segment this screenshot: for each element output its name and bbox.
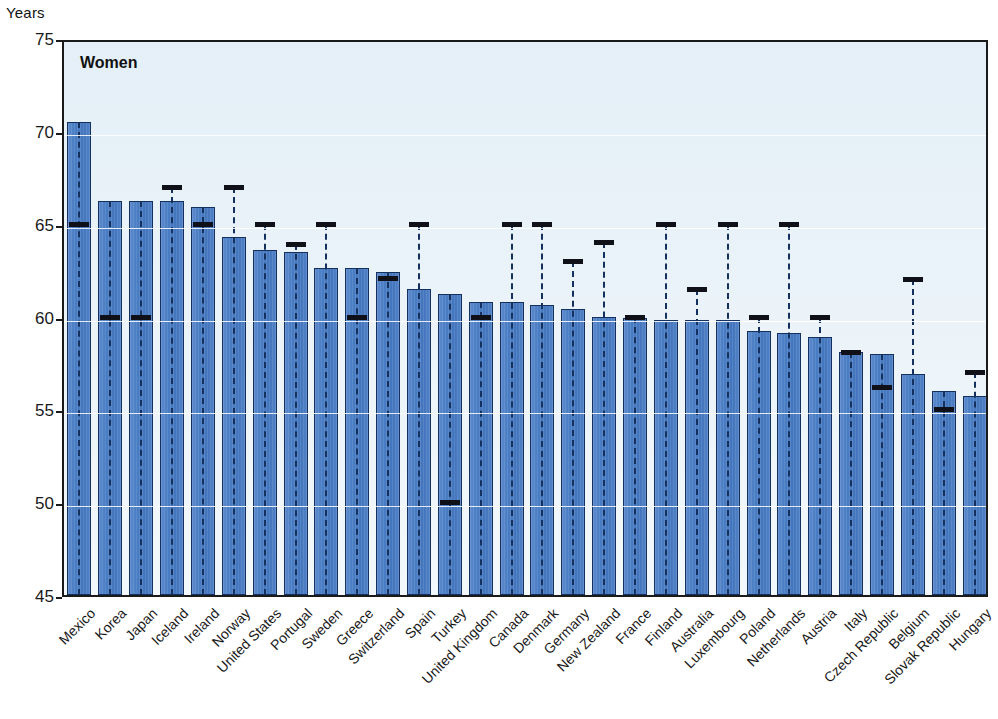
marker-official-retirement-age[interactable] bbox=[131, 315, 151, 320]
bar-group[interactable] bbox=[777, 40, 801, 595]
bar-group[interactable] bbox=[160, 40, 184, 595]
bar-group[interactable] bbox=[530, 40, 554, 595]
connector-dashed-line bbox=[912, 279, 914, 595]
bar-group[interactable] bbox=[284, 40, 308, 595]
marker-official-retirement-age[interactable] bbox=[162, 185, 182, 190]
marker-official-retirement-age[interactable] bbox=[255, 222, 275, 227]
marker-official-retirement-age[interactable] bbox=[903, 277, 923, 282]
connector-dashed-line bbox=[202, 207, 204, 595]
y-axis-tick-mark bbox=[56, 504, 62, 506]
connector-dashed-line bbox=[264, 224, 266, 595]
marker-official-retirement-age[interactable] bbox=[810, 315, 830, 320]
bar-group[interactable] bbox=[500, 40, 524, 595]
gridline bbox=[64, 321, 986, 322]
bar-group[interactable] bbox=[407, 40, 431, 595]
y-axis-tick-mark bbox=[56, 411, 62, 413]
y-axis-tick-label: 60 bbox=[2, 309, 54, 329]
connector-dashed-line bbox=[418, 224, 420, 595]
bar-group[interactable] bbox=[469, 40, 493, 595]
bar-group[interactable] bbox=[253, 40, 277, 595]
marker-official-retirement-age[interactable] bbox=[625, 315, 645, 320]
connector-dashed-line bbox=[325, 224, 327, 595]
plot-area: Women bbox=[62, 40, 988, 597]
marker-official-retirement-age[interactable] bbox=[934, 407, 954, 412]
marker-official-retirement-age[interactable] bbox=[347, 315, 367, 320]
connector-dashed-line bbox=[727, 224, 729, 595]
marker-official-retirement-age[interactable] bbox=[841, 350, 861, 355]
bars-layer bbox=[64, 42, 986, 595]
gridline bbox=[64, 135, 986, 136]
connector-dashed-line bbox=[480, 302, 482, 595]
connector-dashed-line bbox=[850, 352, 852, 595]
marker-official-retirement-age[interactable] bbox=[502, 222, 522, 227]
gridline bbox=[64, 228, 986, 229]
marker-official-retirement-age[interactable] bbox=[471, 315, 491, 320]
marker-official-retirement-age[interactable] bbox=[718, 222, 738, 227]
marker-official-retirement-age[interactable] bbox=[100, 315, 120, 320]
bar-group[interactable] bbox=[654, 40, 678, 595]
marker-official-retirement-age[interactable] bbox=[532, 222, 552, 227]
bar-group[interactable] bbox=[67, 40, 91, 595]
bar-group[interactable] bbox=[623, 40, 647, 595]
connector-dashed-line bbox=[449, 294, 451, 595]
marker-official-retirement-age[interactable] bbox=[286, 242, 306, 247]
bar-group[interactable] bbox=[376, 40, 400, 595]
bar-group[interactable] bbox=[191, 40, 215, 595]
marker-official-retirement-age[interactable] bbox=[965, 370, 985, 375]
bar-group[interactable] bbox=[747, 40, 771, 595]
marker-official-retirement-age[interactable] bbox=[440, 500, 460, 505]
bar-group[interactable] bbox=[716, 40, 740, 595]
bar-group[interactable] bbox=[222, 40, 246, 595]
bar-group[interactable] bbox=[839, 40, 863, 595]
connector-dashed-line bbox=[788, 224, 790, 595]
marker-official-retirement-age[interactable] bbox=[687, 287, 707, 292]
bar-group[interactable] bbox=[345, 40, 369, 595]
bar-group[interactable] bbox=[901, 40, 925, 595]
connector-dashed-line bbox=[572, 261, 574, 595]
connector-dashed-line bbox=[295, 244, 297, 595]
marker-official-retirement-age[interactable] bbox=[563, 259, 583, 264]
connector-dashed-line bbox=[819, 317, 821, 596]
marker-official-retirement-age[interactable] bbox=[594, 240, 614, 245]
connector-dashed-line bbox=[233, 187, 235, 595]
y-axis-unit-label: Years bbox=[6, 4, 45, 21]
y-axis-tick-label: 50 bbox=[2, 494, 54, 514]
connector-dashed-line bbox=[541, 224, 543, 595]
marker-official-retirement-age[interactable] bbox=[193, 222, 213, 227]
bar-group[interactable] bbox=[685, 40, 709, 595]
connector-dashed-line bbox=[171, 187, 173, 595]
marker-official-retirement-age[interactable] bbox=[749, 315, 769, 320]
marker-official-retirement-age[interactable] bbox=[316, 222, 336, 227]
y-axis-tick-label: 65 bbox=[2, 216, 54, 236]
x-axis-labels: MexicoKoreaJapanIcelandIrelandNorwayUnit… bbox=[0, 599, 998, 719]
bar-group[interactable] bbox=[129, 40, 153, 595]
y-axis-tick-mark bbox=[56, 319, 62, 321]
marker-official-retirement-age[interactable] bbox=[69, 222, 89, 227]
marker-official-retirement-age[interactable] bbox=[224, 185, 244, 190]
marker-official-retirement-age[interactable] bbox=[378, 276, 398, 281]
bar-group[interactable] bbox=[870, 40, 894, 595]
chart-root: Years Women 75706560555045 MexicoKoreaJa… bbox=[0, 0, 998, 719]
bar-group[interactable] bbox=[963, 40, 987, 595]
connector-dashed-line bbox=[140, 201, 142, 595]
marker-official-retirement-age[interactable] bbox=[872, 385, 892, 390]
bar-group[interactable] bbox=[314, 40, 338, 595]
bar-group[interactable] bbox=[438, 40, 462, 595]
connector-dashed-line bbox=[511, 224, 513, 595]
marker-official-retirement-age[interactable] bbox=[656, 222, 676, 227]
bar-group[interactable] bbox=[932, 40, 956, 595]
marker-official-retirement-age[interactable] bbox=[409, 222, 429, 227]
y-axis-tick-mark bbox=[56, 226, 62, 228]
connector-dashed-line bbox=[603, 242, 605, 595]
bar-group[interactable] bbox=[592, 40, 616, 595]
y-axis-tick-mark bbox=[56, 40, 62, 42]
y-axis-tick-mark bbox=[56, 133, 62, 135]
bar-group[interactable] bbox=[808, 40, 832, 595]
y-axis-tick-label: 70 bbox=[2, 123, 54, 143]
connector-dashed-line bbox=[943, 391, 945, 595]
bar-group[interactable] bbox=[98, 40, 122, 595]
connector-dashed-line bbox=[634, 317, 636, 596]
bar-group[interactable] bbox=[561, 40, 585, 595]
connector-dashed-line bbox=[109, 201, 111, 595]
marker-official-retirement-age[interactable] bbox=[779, 222, 799, 227]
